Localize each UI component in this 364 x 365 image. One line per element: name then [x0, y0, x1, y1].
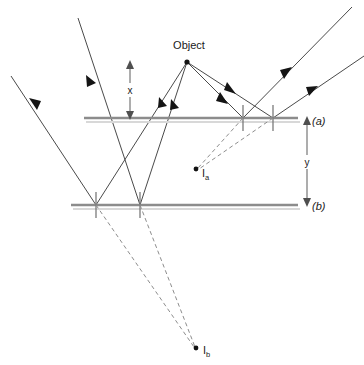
arrowhead-object-to-a1-icon — [216, 92, 228, 104]
ray-mirror-b-1-outgoing — [11, 76, 96, 205]
dimension-y-group: y — [300, 116, 314, 207]
image-a-label-sub: a — [205, 173, 210, 182]
arrowhead-object-to-a2-icon — [224, 82, 236, 94]
dimension-x-group: x — [123, 60, 137, 120]
image-a-point-marker — [194, 167, 199, 172]
text-label-group: Object (a) (b) Ia Ib — [173, 39, 326, 359]
virtual-ray-b1 — [96, 205, 194, 347]
dimension-x-label: x — [128, 85, 133, 96]
ray-mirror-a-2-outgoing — [273, 56, 364, 118]
mirror-a-group — [84, 105, 300, 131]
optical-ray-diagram-canvas: x y Object (a) (b) Ia Ib — [0, 0, 364, 365]
dimension-x-arrow-top-icon — [126, 60, 134, 69]
virtual-ray-b2 — [140, 205, 195, 347]
real-ray-group — [11, 7, 364, 205]
ray-direction-arrowheads — [29, 67, 318, 110]
dimension-y-arrow-bottom-icon — [303, 198, 311, 207]
mirror-b-group — [71, 192, 300, 218]
mirror-a-label: (a) — [312, 115, 326, 127]
object-point-marker — [184, 59, 189, 64]
image-b-label-sub: b — [206, 350, 210, 359]
arrowhead-out-b1-icon — [29, 98, 41, 110]
dimension-y-arrow-top-icon — [303, 116, 311, 125]
image-a-label: Ia — [202, 167, 210, 182]
ray-diagram-figure: x y Object (a) (b) Ia Ib — [0, 0, 364, 365]
mirror-b-label: (b) — [312, 200, 326, 212]
ray-object-to-mirror-b-1 — [96, 62, 187, 205]
image-b-point-marker — [194, 346, 199, 351]
arrowhead-out-b2-icon — [86, 75, 96, 87]
arrowhead-object-to-b1-icon — [158, 97, 167, 108]
ray-object-to-mirror-a-1 — [187, 62, 243, 118]
virtual-ray-group-a — [198, 118, 273, 169]
arrowhead-out-a1-icon — [280, 67, 292, 79]
object-label: Object — [173, 39, 205, 51]
virtual-ray-group-b — [96, 205, 195, 347]
ray-object-to-mirror-b-2 — [140, 62, 187, 205]
dimension-y-label: y — [305, 157, 310, 168]
image-b-label: Ib — [203, 344, 210, 359]
